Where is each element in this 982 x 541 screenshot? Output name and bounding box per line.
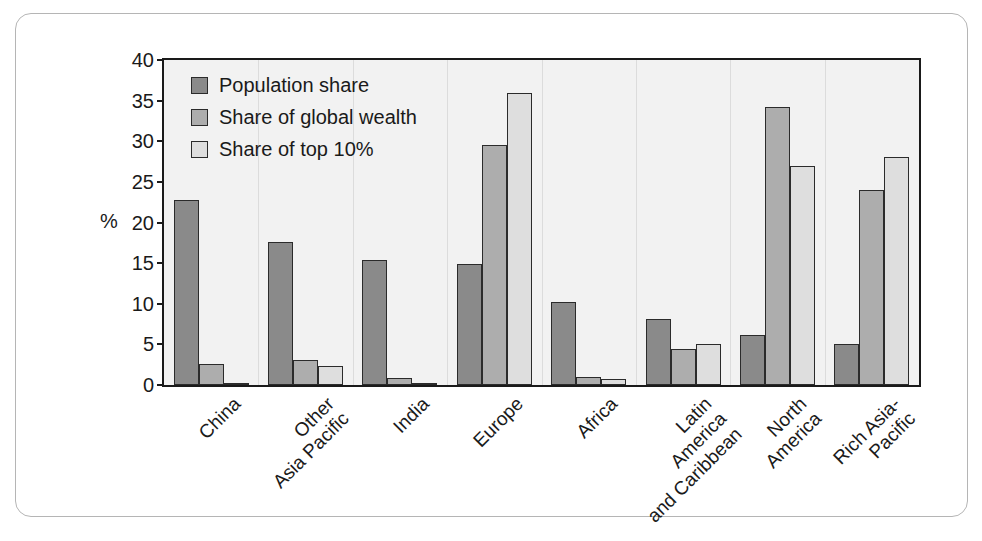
legend-item: Population share	[191, 71, 417, 99]
legend-swatch-icon	[191, 109, 208, 126]
bar	[884, 157, 909, 385]
bar	[293, 360, 318, 385]
y-axis-title: %	[100, 210, 118, 233]
x-axis-category-label: China	[194, 393, 244, 443]
bar	[387, 378, 412, 385]
figure-frame: 4035302520151050 % ChinaOtherAsia Pacifi…	[15, 13, 968, 517]
bar	[174, 200, 199, 385]
bar-group	[730, 60, 824, 385]
bar	[790, 166, 815, 385]
legend-swatch-icon	[191, 141, 208, 158]
y-axis-tick-label: 40	[132, 49, 154, 72]
bar	[834, 344, 859, 385]
bar	[457, 264, 482, 385]
y-axis-tick-label: 0	[143, 374, 154, 397]
chart-legend: Population shareShare of global wealthSh…	[191, 71, 417, 167]
x-axis-category-label: India	[389, 393, 433, 437]
bar-group	[825, 60, 919, 385]
bar	[318, 366, 343, 386]
bar	[482, 145, 507, 385]
y-axis-tick-label: 10	[132, 292, 154, 315]
legend-label: Population share	[219, 74, 369, 97]
y-axis-tick-label: 30	[132, 130, 154, 153]
x-axis-category-label: OtherAsia Pacific	[254, 393, 354, 493]
x-axis-category-label: Europe	[469, 393, 527, 451]
x-axis-category-label: Rich Asia-Pacific	[829, 393, 920, 484]
figure-caption	[10, 524, 970, 541]
bar	[507, 93, 532, 386]
bar	[224, 383, 249, 385]
bar-group	[542, 60, 636, 385]
bar-group	[636, 60, 730, 385]
y-axis-tick-label: 25	[132, 170, 154, 193]
bar	[199, 364, 224, 385]
legend-item: Share of top 10%	[191, 135, 417, 163]
bar	[601, 379, 626, 385]
bar	[551, 302, 576, 385]
bar	[268, 242, 293, 385]
bar-group	[447, 60, 541, 385]
y-axis-tick-label: 20	[132, 211, 154, 234]
y-axis-tick-label: 35	[132, 89, 154, 112]
bar	[740, 335, 765, 385]
bar	[576, 377, 601, 385]
legend-label: Share of global wealth	[219, 106, 417, 129]
legend-item: Share of global wealth	[191, 103, 417, 131]
y-axis-tick-label: 15	[132, 252, 154, 275]
x-axis-category-label: Africa	[572, 393, 621, 442]
x-axis-category-label: NorthAmerica	[746, 393, 825, 472]
bar	[696, 344, 721, 385]
y-axis-tick-label: 5	[143, 333, 154, 356]
bar	[765, 107, 790, 385]
legend-swatch-icon	[191, 77, 208, 94]
x-axis-category-label: LatinAmericaand Caribbean	[613, 393, 746, 526]
bar	[859, 190, 884, 385]
bar	[646, 319, 671, 385]
bar	[412, 383, 437, 385]
legend-label: Share of top 10%	[219, 138, 374, 161]
bar	[362, 260, 387, 385]
bar	[671, 349, 696, 385]
